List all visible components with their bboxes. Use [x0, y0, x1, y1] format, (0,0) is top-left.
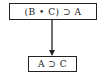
conclusion-label: A ⊃ C: [38, 59, 67, 69]
conclusion-node: A ⊃ C: [28, 56, 77, 72]
